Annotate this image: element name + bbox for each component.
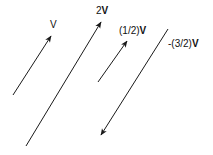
label-vec: V <box>50 19 57 30</box>
label-vec: V <box>140 25 147 36</box>
vector-v-arrow <box>13 36 51 95</box>
label-vec: V <box>102 5 109 16</box>
label-prefix: (1/2) <box>119 25 140 36</box>
vector-half-v-label: (1/2)V <box>119 26 146 36</box>
vector-neg-three-halves-v-arrow <box>101 29 168 135</box>
vector-2v-label: 2V <box>96 6 108 16</box>
vector-v-label: V <box>50 20 57 30</box>
label-prefix: -(3/2) <box>168 38 192 49</box>
label-vec: V <box>192 38 199 49</box>
vector-half-v-arrow <box>98 41 127 82</box>
vector-neg-three-halves-v-label: -(3/2)V <box>168 39 199 49</box>
vector-2v-arrow <box>26 22 101 146</box>
vector-diagram <box>0 0 213 155</box>
